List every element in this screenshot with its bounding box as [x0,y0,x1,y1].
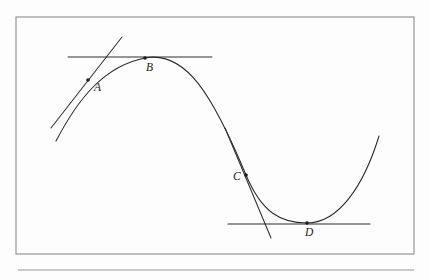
point-label-d: D [304,226,314,238]
point-label-a: A [93,81,102,93]
point-dot-d [305,221,309,225]
figure-canvas: A B C D [0,0,430,280]
tangent-line-c [225,128,271,238]
figure-root: A B C D [0,0,430,280]
plotted-curve [56,57,379,223]
point-dot-c [244,173,248,177]
figure-frame [16,17,414,254]
point-dot-a [86,78,90,82]
tangent-line-a [51,37,122,128]
point-label-b: B [146,61,153,73]
point-label-c: C [233,170,241,182]
point-dot-b [143,56,147,60]
